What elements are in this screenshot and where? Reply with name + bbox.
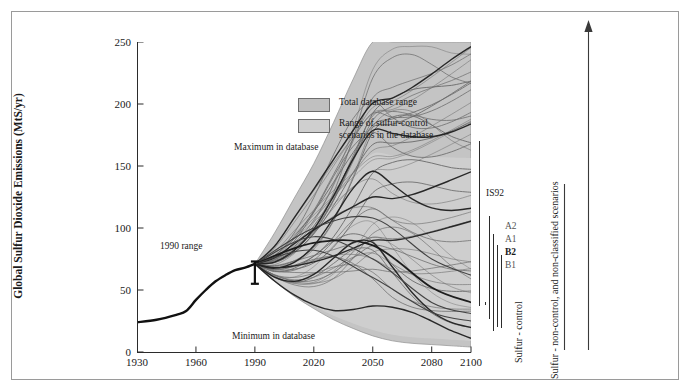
y-tick-label: 150 <box>115 161 132 172</box>
range-bar-a1 <box>493 234 494 331</box>
x-tick-label: 2020 <box>303 357 325 368</box>
side-caption-rules <box>556 18 616 368</box>
range-bar-label-a1: A1 <box>505 234 517 244</box>
legend-swatch-sulfur-control-range <box>298 119 330 133</box>
plot-area: 050100150200250 193019601990202020502080… <box>137 42 471 352</box>
y-tick-label: 200 <box>115 99 132 110</box>
range-bar-label-b1: B1 <box>505 260 516 270</box>
legend: Total database range Range of sulfur-con… <box>298 97 433 148</box>
legend-label-total-database-range: Total database range <box>339 97 417 109</box>
range-bar-is92 <box>479 141 480 306</box>
x-tick-label: 1960 <box>185 357 207 368</box>
annotation-minimum-in-database: Minimum in database <box>232 331 315 341</box>
x-tick-label: 1930 <box>126 357 148 368</box>
y-tick-label: 100 <box>115 223 132 234</box>
range-bar-label-is92: IS92 <box>486 188 504 198</box>
x-tick-label: 2080 <box>421 357 443 368</box>
x-tick-label: 1990 <box>244 357 266 368</box>
annotation-maximum-in-database: Maximum in database <box>234 142 318 152</box>
x-tick-label: 2050 <box>362 357 384 368</box>
side-caption-sulfur-control: Sulfur - control <box>513 301 524 363</box>
figure-root: Global Sulfur Dioxide Emissions (MtS/yr) <box>0 0 691 392</box>
legend-label-sulfur-control-range: Range of sulfur-control scenarios in the… <box>339 118 433 142</box>
chart-canvas <box>137 42 471 352</box>
y-tick-label: 50 <box>120 285 131 296</box>
range-bar-tick <box>485 302 486 304</box>
range-bar-b1 <box>501 255 502 328</box>
x-tick-label: 2100 <box>460 357 482 368</box>
range-bar-label-b2: B2 <box>505 247 516 257</box>
y-axis-title: Global Sulfur Dioxide Emissions (MtS/yr) <box>11 81 25 311</box>
range-bar-a2 <box>489 216 490 319</box>
range-bar-b2 <box>497 245 498 327</box>
range-bar-label-a2: A2 <box>505 221 517 231</box>
historical-emissions-line <box>137 264 255 322</box>
legend-item-sulfur-control-range: Range of sulfur-control scenarios in the… <box>298 118 433 142</box>
annotation-1990-range: 1990 range <box>160 241 202 251</box>
legend-item-total-database-range: Total database range <box>298 97 433 112</box>
legend-swatch-total-database-range <box>298 98 330 112</box>
y-tick-label: 250 <box>115 37 132 48</box>
